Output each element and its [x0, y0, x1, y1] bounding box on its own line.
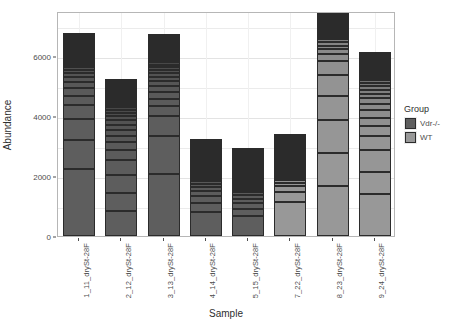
- x-tick-mark-2: [120, 238, 121, 241]
- bar-segment: [63, 119, 95, 140]
- plot-panel: [57, 12, 395, 237]
- legend-swatch: [405, 118, 416, 129]
- bar-segment: [359, 136, 391, 150]
- y-tick-mark-4000: [53, 117, 56, 118]
- chart-root: Abundance 0200040006000 1_11_drySt-28F2_…: [0, 0, 462, 331]
- bar-segment: [63, 88, 95, 96]
- legend-entries: Vdr-/-WT: [404, 117, 440, 144]
- bar-segment: [148, 116, 180, 136]
- bar-segment: [105, 175, 137, 194]
- bar-5[interactable]: [232, 181, 264, 236]
- legend-key: [404, 117, 417, 130]
- x-tick-label-4: 4_14_drySt-28F: [208, 243, 217, 298]
- bar-segment: [148, 136, 180, 174]
- bar-segment: [105, 193, 137, 211]
- bar-segment: [359, 126, 391, 136]
- bar-segment: [359, 110, 391, 118]
- bar-7[interactable]: [317, 22, 349, 237]
- x-axis-title: Sample: [57, 308, 395, 319]
- bar-segment: [190, 196, 222, 203]
- bar-segment: [105, 211, 137, 236]
- bar-4[interactable]: [190, 167, 222, 236]
- legend-label: Vdr-/-: [420, 119, 440, 128]
- bar-segment: [317, 61, 349, 75]
- y-tick-label-0: 0: [47, 233, 51, 242]
- x-tick-mark-7: [332, 238, 333, 241]
- legend-title: Group: [404, 104, 440, 114]
- bar-segment: [232, 216, 264, 236]
- bar-segment: [63, 140, 95, 168]
- x-tick-mark-6: [289, 238, 290, 241]
- bar-6[interactable]: [274, 172, 306, 237]
- bar-segment: [317, 186, 349, 236]
- bar-segment: [105, 150, 137, 160]
- bar-segment: [190, 203, 222, 212]
- y-tick-label-4000: 4000: [33, 113, 51, 122]
- bar-segment: [317, 96, 349, 119]
- bar-1[interactable]: [63, 52, 95, 237]
- x-tick-mark-5: [247, 238, 248, 241]
- x-tick-mark-1: [78, 238, 79, 241]
- x-tick-label-5: 5_15_drySt-28F: [251, 243, 260, 298]
- bar-2[interactable]: [105, 85, 137, 237]
- bar-segment: [148, 174, 180, 236]
- legend-label: WT: [420, 133, 432, 142]
- x-tick-mark-8: [374, 238, 375, 241]
- y-tick-label-2000: 2000: [33, 173, 51, 182]
- x-tick-label-2: 2_12_drySt-28F: [124, 243, 133, 298]
- y-axis-title: Abundance: [2, 100, 13, 151]
- x-tick-mark-4: [205, 238, 206, 241]
- bar-segment: [63, 169, 95, 237]
- x-tick-label-8: 9_24_drySt-28F: [377, 243, 386, 298]
- y-tick-label-6000: 6000: [33, 53, 51, 62]
- x-tick-label-1: 1_11_drySt-28F: [82, 243, 91, 298]
- bar-segment: [105, 160, 137, 174]
- x-tick-label-6: 7_22_drySt-28F: [293, 243, 302, 298]
- legend-entry-2: WT: [404, 131, 440, 144]
- bar-segment: [359, 172, 391, 194]
- bar-segment: [148, 106, 180, 116]
- bar-segment: [359, 150, 391, 173]
- x-tick-label-3: 3_13_drySt-28F: [166, 243, 175, 298]
- y-tick-mark-6000: [53, 57, 56, 58]
- bar-segment: [148, 92, 180, 99]
- legend-swatch: [405, 132, 416, 143]
- y-tick-mark-0: [53, 237, 56, 238]
- bar-segment: [232, 209, 264, 216]
- bar-segment: [317, 75, 349, 97]
- bar-segment: [63, 96, 95, 105]
- bar-segment: [190, 212, 222, 236]
- legend-key: [404, 131, 417, 144]
- bar-8[interactable]: [359, 73, 391, 237]
- bar-3[interactable]: [148, 56, 180, 236]
- bar-segment: [317, 153, 349, 186]
- bar-segment: [359, 194, 391, 236]
- bar-series: [58, 13, 394, 236]
- legend-entry-1: Vdr-/-: [404, 117, 440, 130]
- bar-segment: [63, 105, 95, 119]
- bar-segment: [359, 118, 391, 127]
- bar-segment: [105, 136, 137, 143]
- x-tick-mark-3: [163, 238, 164, 241]
- bar-segment: [274, 202, 306, 237]
- x-tick-label-7: 8_23_drySt-28F: [335, 243, 344, 298]
- y-tick-mark-2000: [53, 177, 56, 178]
- legend: Group Vdr-/-WT: [404, 104, 440, 145]
- bar-segment: [148, 99, 180, 107]
- bar-segment: [274, 192, 306, 202]
- bar-segment: [105, 142, 137, 150]
- bar-segment: [317, 120, 349, 153]
